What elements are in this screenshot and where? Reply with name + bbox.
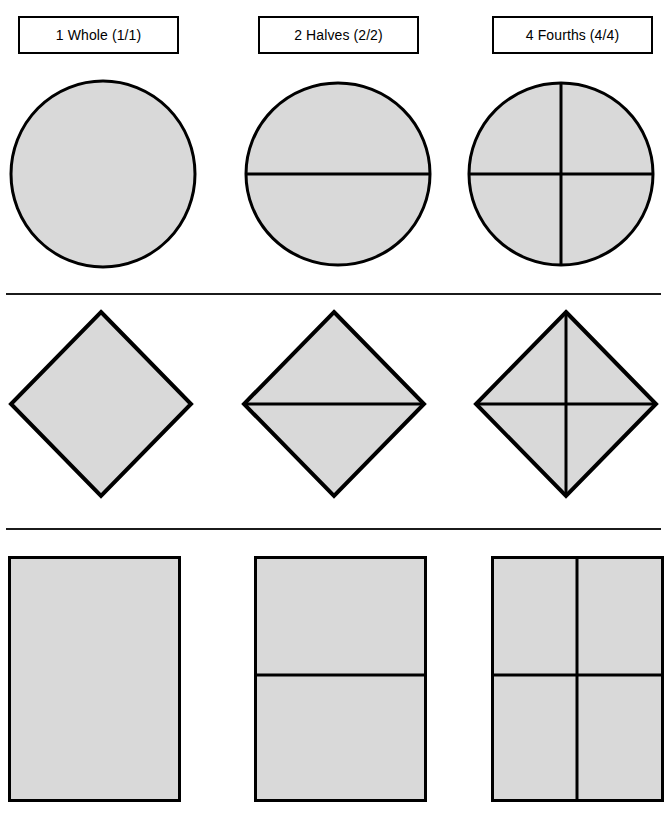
diamond-whole [7,308,195,500]
column-label-fourths-text: 4 Fourths (4/4) [526,27,619,43]
rectangle-whole-cell [8,556,181,802]
rectangle-fourths-cell [491,556,664,802]
diamond-outline [11,312,191,496]
diamond-fourths-cell [472,308,660,500]
column-label-fourths: 4 Fourths (4/4) [492,16,653,54]
diamond-halves-cell [240,308,428,500]
row-circles [0,78,667,283]
column-label-halves: 2 Halves (2/2) [258,16,419,54]
column-label-halves-text: 2 Halves (2/2) [294,27,383,43]
rectangle-outline [256,558,426,801]
circle-fourths [466,78,656,270]
diamond-whole-cell [7,308,195,500]
circle-whole-cell [8,78,198,270]
rectangle-whole [8,556,181,802]
diamond-halves [240,308,428,500]
circle-fourths-cell [466,78,656,270]
circle-halves-cell [243,78,433,270]
circle-whole [8,78,198,270]
column-label-whole-text: 1 Whole (1/1) [56,27,141,43]
row-diamonds [0,308,667,508]
column-label-whole: 1 Whole (1/1) [18,16,179,54]
rectangle-fourths [491,556,664,802]
fraction-worksheet: 1 Whole (1/1) 2 Halves (2/2) 4 Fourths (… [0,0,667,814]
rectangle-halves [254,556,427,802]
diamond-fourths [472,308,660,500]
circle-halves [243,78,433,270]
rectangle-outline [10,558,180,801]
circle-outline [11,81,195,267]
row-rectangles [0,556,667,806]
row-separator-2 [6,528,661,530]
row-separator-1 [6,293,661,295]
rectangle-halves-cell [254,556,427,802]
column-label-row: 1 Whole (1/1) 2 Halves (2/2) 4 Fourths (… [0,0,667,72]
